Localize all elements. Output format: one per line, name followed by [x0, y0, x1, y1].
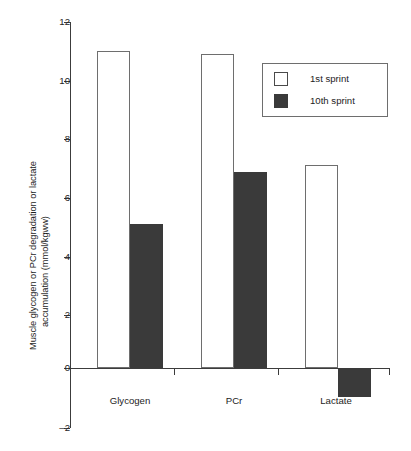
- y-tick-label-12: 12: [44, 17, 70, 27]
- y-tick-0: 0: [0, 368, 70, 369]
- x-tick-glycogen-pcr: [174, 369, 175, 375]
- bar-pcr-1st-sprint: [201, 54, 234, 369]
- y-axis-label-line-1: Muscle glycogen or PCr degradation or la…: [27, 161, 40, 350]
- bar-chart-figure: Muscle glycogen or PCr degradation or la…: [0, 0, 411, 451]
- legend-label-1st-sprint: 1st sprint: [310, 73, 349, 85]
- y-tick-2: 2: [0, 315, 70, 316]
- y-tick-10: 10: [0, 81, 70, 82]
- y-tick-label-2: 2: [44, 310, 70, 320]
- chart-legend: 1st sprint 10th sprint: [262, 63, 388, 117]
- y-tick-4: 4: [0, 257, 70, 258]
- bar-pcr-10th-sprint: [234, 172, 267, 368]
- x-tick-label-glycogen: Glycogen: [90, 395, 170, 406]
- y-tick-label-6: 6: [44, 193, 70, 203]
- legend-swatch-open-icon: [274, 72, 288, 86]
- y-axis-label: Muscle glycogen or PCr degradation or la…: [0, 0, 46, 451]
- y-tick-label-0: 0: [44, 363, 70, 373]
- bar-lactate-10th-sprint: [338, 368, 371, 397]
- y-tick-minus-2: –2: [0, 428, 70, 429]
- y-tick-label-4: 4: [44, 252, 70, 262]
- legend-label-10th-sprint: 10th sprint: [310, 95, 355, 107]
- bar-glycogen-10th-sprint: [130, 224, 163, 368]
- legend-swatch-filled-icon: [274, 94, 288, 108]
- x-tick-right-edge: [389, 369, 390, 375]
- x-tick-left-edge: [70, 369, 71, 375]
- x-tick-label-pcr: PCr: [194, 395, 274, 406]
- y-tick-label-10: 10: [44, 76, 70, 86]
- x-tick-label-lactate: Lactate: [296, 395, 376, 406]
- y-tick-8: 8: [0, 139, 70, 140]
- x-tick-pcr-lactate: [278, 369, 279, 375]
- y-tick-6: 6: [0, 198, 70, 199]
- y-tick-label-minus-2: –2: [44, 423, 70, 433]
- bar-lactate-1st-sprint: [305, 165, 338, 368]
- y-tick-label-8: 8: [44, 134, 70, 144]
- bar-glycogen-1st-sprint: [97, 51, 130, 368]
- y-tick-12: 12: [0, 22, 70, 23]
